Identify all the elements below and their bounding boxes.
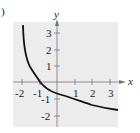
x-tick-label: -2 — [15, 88, 24, 99]
y-tick-label: 3 — [46, 28, 52, 39]
x-tick-label: 1 — [73, 88, 79, 99]
x-axis-label: x — [128, 76, 133, 87]
x-axis-arrow-icon — [119, 80, 126, 84]
x-tick-label: 3 — [108, 88, 114, 99]
y-tick-label: 1 — [46, 61, 52, 72]
y-tick-label: -1 — [41, 94, 50, 105]
x-tick-label: 2 — [90, 88, 96, 99]
plot — [0, 0, 140, 133]
y-tick-label: -2 — [41, 111, 50, 122]
y-tick-label: 2 — [46, 45, 52, 56]
plot-background — [13, 22, 118, 127]
y-axis-label: y — [54, 9, 59, 20]
